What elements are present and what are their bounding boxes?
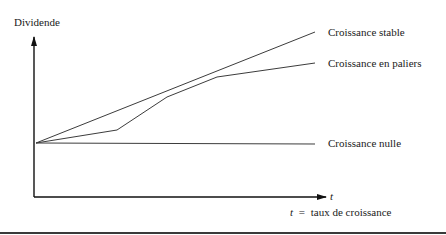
line-croissance-stable (36, 32, 315, 143)
y-axis-label: Dividende (14, 17, 60, 28)
legend-text: taux de croissance (311, 206, 392, 218)
series-label-nulle: Croissance nulle (328, 138, 401, 149)
legend-note: t = taux de croissance (290, 207, 391, 218)
bottom-rule (0, 232, 446, 234)
series-label-paliers: Croissance en paliers (328, 58, 421, 69)
series-label-stable: Croissance stable (328, 27, 405, 38)
x-axis-label: t (330, 191, 333, 202)
line-croissance-en-paliers (36, 63, 315, 143)
legend-equals: = (299, 206, 305, 218)
line-croissance-nulle (36, 143, 315, 144)
legend-symbol: t (290, 206, 293, 218)
